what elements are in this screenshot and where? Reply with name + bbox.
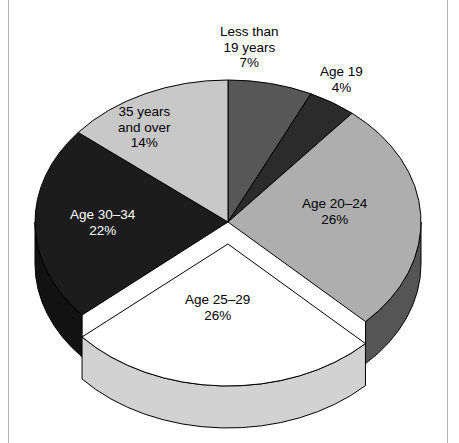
pie-label-age-25-29: Age 25–2926% <box>185 292 250 323</box>
pie-label-35-and-over-line-2: and over <box>118 120 171 136</box>
pie-label-35-and-over: 35 yearsand over14% <box>118 104 171 151</box>
pie-label-less-than-19-line-2: 19 years <box>220 40 279 56</box>
pie-label-age-19-value: 4% <box>320 80 363 96</box>
pie-label-age-25-29-line-1: Age 25–29 <box>185 292 250 308</box>
pie-label-age-30-34-value: 22% <box>70 223 135 239</box>
pie-chart-figure: Less than19 years7%Age 194%Age 20–2426%A… <box>0 0 459 443</box>
pie-label-less-than-19-line-1: Less than <box>220 24 279 40</box>
pie-label-age-25-29-value: 26% <box>185 308 250 324</box>
pie-label-age-20-24: Age 20–2426% <box>302 196 367 227</box>
pie-label-35-and-over-line-1: 35 years <box>118 104 171 120</box>
pie-label-age-19-line-1: Age 19 <box>320 64 363 80</box>
pie-label-age-30-34-line-1: Age 30–34 <box>70 207 135 223</box>
pie-label-less-than-19: Less than19 years7% <box>220 24 279 71</box>
pie-label-age-20-24-value: 26% <box>302 212 367 228</box>
pie-label-less-than-19-value: 7% <box>220 55 279 71</box>
pie-label-age-19: Age 194% <box>320 64 363 95</box>
pie-label-35-and-over-value: 14% <box>118 135 171 151</box>
pie-label-age-20-24-line-1: Age 20–24 <box>302 196 367 212</box>
pie-label-age-30-34: Age 30–3422% <box>70 207 135 238</box>
